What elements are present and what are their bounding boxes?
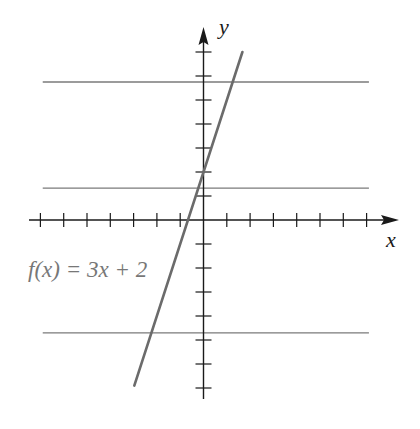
function-line: [134, 52, 242, 386]
y-axis-label: y: [217, 14, 229, 39]
x-axis-label: x: [385, 227, 396, 252]
horizontal-reference-lines: [43, 82, 369, 333]
function-line-series: [134, 52, 242, 386]
function-label: f(x) = 3x + 2: [28, 257, 147, 282]
function-graph: x y f(x) = 3x + 2: [0, 0, 420, 429]
